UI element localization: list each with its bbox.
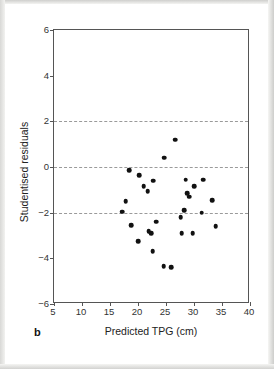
y-tick-label--2: −2 xyxy=(30,206,49,217)
scatter-point xyxy=(154,220,159,225)
x-tick-label-20: 20 xyxy=(132,306,143,317)
scatter-point xyxy=(123,199,128,204)
scatter-point xyxy=(162,156,167,161)
scan-edge-left xyxy=(0,0,5,369)
x-axis-title: Predicted TPG (cm) xyxy=(53,325,249,337)
x-tick-label-15: 15 xyxy=(104,306,115,317)
scatter-point xyxy=(141,184,146,189)
x-tick-label-40: 40 xyxy=(244,306,255,317)
y-tick--6 xyxy=(50,304,54,305)
scatter-point xyxy=(178,215,183,220)
scatter-point xyxy=(191,231,196,236)
y-tick-label--4: −4 xyxy=(30,252,49,263)
scatter-point xyxy=(187,194,192,199)
scatter-point xyxy=(161,264,166,269)
scatter-point xyxy=(169,265,174,270)
scan-edge-bottom xyxy=(0,364,274,369)
y-tick-4 xyxy=(50,76,54,77)
x-tick-label-30: 30 xyxy=(188,306,199,317)
scan-edge-right xyxy=(268,0,274,369)
y-tick--4 xyxy=(50,258,54,259)
plot-area xyxy=(53,29,249,303)
y-tick-label-4: 4 xyxy=(30,69,49,80)
scatter-point xyxy=(192,184,197,189)
scatter-point xyxy=(173,137,178,142)
y-axis-title: Studentised residuals xyxy=(18,102,30,242)
y-tick-6 xyxy=(50,30,54,31)
scatter-point xyxy=(127,168,132,173)
scan-edge-top xyxy=(0,0,274,4)
reference-line-y-2 xyxy=(54,121,248,122)
scatter-point xyxy=(120,209,125,214)
y-tick-label-2: 2 xyxy=(30,115,49,126)
scatter-point xyxy=(182,208,187,213)
scatter-point xyxy=(210,198,215,203)
scatter-point xyxy=(137,173,142,178)
y-tick-label-6: 6 xyxy=(30,24,49,35)
scatter-point xyxy=(214,224,219,229)
scatter-point xyxy=(150,249,155,254)
y-tick-label-0: 0 xyxy=(30,161,49,172)
panel-label: b xyxy=(34,326,41,338)
scatter-point xyxy=(183,177,188,182)
scatter-point xyxy=(200,210,205,215)
x-tick-label-5: 5 xyxy=(50,306,55,317)
scatter-point xyxy=(179,231,184,236)
figure-panel: 510152025303540 6420−2−4−6 Predicted TPG… xyxy=(0,0,274,369)
y-tick-layer xyxy=(54,30,248,302)
y-tick-label--6: −6 xyxy=(30,298,49,309)
scatter-point xyxy=(129,223,134,228)
scatter-point xyxy=(136,239,141,244)
scatter-point xyxy=(201,177,206,182)
reference-line-y--2 xyxy=(54,213,248,214)
scatter-point xyxy=(151,178,156,183)
x-tick-label-10: 10 xyxy=(76,306,87,317)
scatter-point xyxy=(149,231,154,236)
x-tick-label-35: 35 xyxy=(216,306,227,317)
x-tick-label-25: 25 xyxy=(160,306,171,317)
scatter-point xyxy=(145,189,150,194)
reference-line-y-0 xyxy=(54,167,248,168)
